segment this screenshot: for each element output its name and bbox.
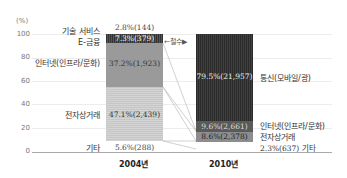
x-label-2004: 2004년 <box>119 158 148 169</box>
bar-2004: 2.8%(144) 7.3%(379) 37.2%(1,923) 47.1%(2… <box>106 34 163 152</box>
label-2010-etc: 2.3%(637) 기타 <box>260 142 316 153</box>
label-2004-etc: 기타 <box>86 142 100 153</box>
value-2004-efin: 7.3%(379) <box>106 34 163 43</box>
value-2010-telecom: 79.5%(21,957) <box>196 72 253 81</box>
value-2004-etc: 5.6%(288) <box>106 143 163 152</box>
label-2004-ecom: 전자상거래 <box>65 109 100 120</box>
label-2004-efin: E-금융 <box>78 36 100 47</box>
label-2010-ecom: 전자상거래 <box>260 131 295 142</box>
label-2010-telecom: 통신(모바일/광) <box>260 72 311 83</box>
value-2004-internet: 37.2%(1,923) <box>106 59 163 68</box>
value-2010-internet: 9.6%(2,661) <box>196 122 253 131</box>
value-2004-ecom: 47.1%(2,439) <box>106 110 163 119</box>
arrow-right-icon: ▶ <box>182 38 187 46</box>
x-label-2010: 2010년 <box>209 158 238 169</box>
label-2010-internet: 인터넷(인프라/문화) <box>260 120 325 131</box>
value-2010-ecom: 8.6%(2,378) <box>196 132 253 141</box>
value-2004-tech: 2.8%(144) <box>106 23 163 32</box>
bar-2010: 79.5%(21,957) 9.6%(2,661) 8.6%(2,378) <box>196 34 253 152</box>
withdraw-annotation: ←철수▶ <box>164 36 187 46</box>
label-2004-tech: 기술 서비스 <box>62 25 100 36</box>
label-2004-internet: 인터넷(인프라/문화) <box>35 57 100 68</box>
withdraw-label: ←철수 <box>164 38 182 46</box>
